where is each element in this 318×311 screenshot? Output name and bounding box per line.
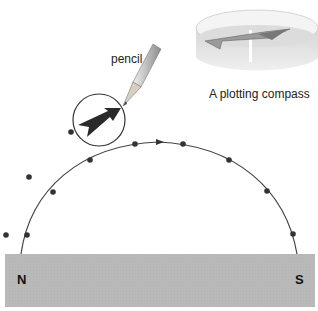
field-line (21, 142, 297, 254)
north-pole-label: N (17, 272, 26, 287)
magnetic-field-diagram (0, 0, 318, 311)
direction-arrow-icon (156, 139, 164, 145)
bar-magnet (5, 254, 315, 307)
plotting-compass-icon (196, 10, 318, 71)
compass-caption: A plotting compass (209, 87, 310, 101)
pencil-label: pencil (111, 52, 142, 66)
south-pole-label: S (295, 272, 304, 287)
stray-points (3, 129, 74, 238)
plotted-points (24, 141, 296, 238)
